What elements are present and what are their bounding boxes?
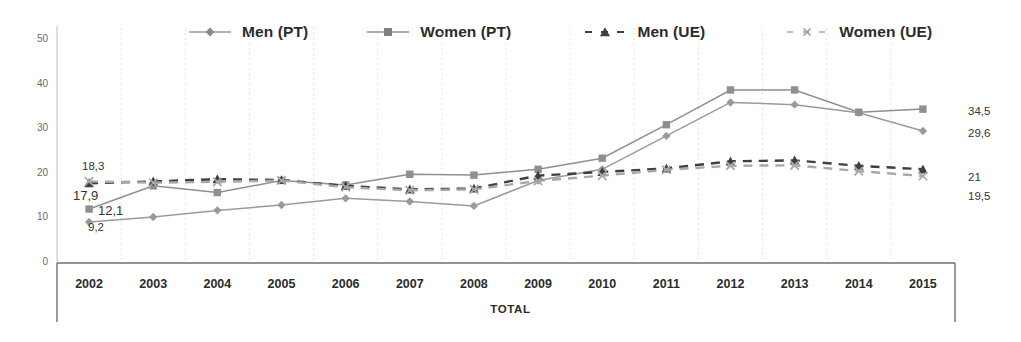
- y-axis-tick-label: 10: [18, 211, 48, 222]
- y-axis-tick-label: 20: [18, 167, 48, 178]
- x-axis-tick-label: 2013: [762, 277, 828, 291]
- series-marker: [919, 105, 926, 112]
- series-marker: [214, 189, 221, 196]
- series-marker: [727, 86, 734, 93]
- series-marker: [149, 213, 157, 221]
- x-axis-tick-label: 2012: [698, 277, 764, 291]
- series-lines: [84, 86, 927, 226]
- data-point-label: 34,5: [968, 105, 990, 117]
- series-marker: [791, 86, 798, 93]
- data-point-label: 29,6: [968, 127, 990, 139]
- y-axis-tick-label: 40: [18, 78, 48, 89]
- series-marker: [406, 171, 413, 178]
- series-marker: [213, 206, 221, 214]
- data-point-label: 19,5: [968, 190, 990, 202]
- data-point-label: 9,2: [88, 221, 104, 233]
- x-axis-tick-label: 2010: [569, 277, 635, 291]
- data-point-label: 12,1: [98, 203, 123, 218]
- series-marker: [919, 127, 927, 135]
- series-marker: [470, 202, 478, 210]
- y-axis-tick-label: 0: [18, 256, 48, 267]
- series-marker: [726, 98, 734, 106]
- series-marker: [470, 171, 477, 178]
- series-marker: [599, 154, 606, 161]
- chart-container: Men (PT) Women (PT) Men (UE): [0, 0, 1021, 342]
- y-axis-tick-label: 50: [18, 33, 48, 44]
- x-axis-tick-label: 2014: [826, 277, 892, 291]
- gridlines: [121, 28, 891, 263]
- data-point-label: 18,3: [82, 160, 104, 172]
- series-marker: [855, 109, 862, 116]
- x-axis-tick-label: 2007: [377, 277, 443, 291]
- series-marker: [663, 121, 670, 128]
- series-marker: [662, 132, 670, 140]
- x-axis-tick-label: 2015: [890, 277, 956, 291]
- x-axis-tick-label: 2011: [633, 277, 699, 291]
- y-axis-tick-label: 30: [18, 122, 48, 133]
- series-marker: [277, 201, 285, 209]
- x-axis-tick-label: 2003: [120, 277, 186, 291]
- x-axis-tick-label: 2004: [184, 277, 250, 291]
- data-point-label: 17,9: [73, 188, 98, 203]
- series-marker: [341, 194, 349, 202]
- x-axis-tick-label: 2006: [313, 277, 379, 291]
- x-axis-tick-label: 2008: [441, 277, 507, 291]
- series-marker: [85, 205, 92, 212]
- x-axis-title: TOTAL: [0, 303, 1021, 315]
- series-marker: [790, 100, 798, 108]
- x-axis-tick-label: 2005: [249, 277, 315, 291]
- data-point-label: 21: [968, 171, 981, 183]
- x-axis-tick-label: 2002: [56, 277, 122, 291]
- x-axis-tick-label: 2009: [505, 277, 571, 291]
- series-marker: [406, 197, 414, 205]
